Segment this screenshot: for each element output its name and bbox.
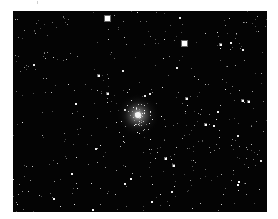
sky-canvas: [13, 11, 267, 212]
edge-mark: [37, 1, 38, 4]
star-field-image: [13, 11, 267, 212]
